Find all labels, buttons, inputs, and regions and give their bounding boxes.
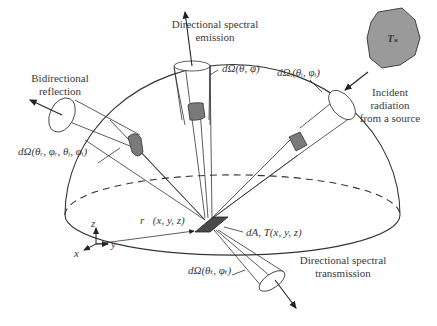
label-axis-z: z xyxy=(91,217,95,230)
label-solid-angle-transmission: dΩ(θₜ, φₜ) xyxy=(188,264,231,277)
label-solid-angle-incident: dΩᵢ(θᵢ, φᵢ) xyxy=(277,66,320,79)
label-transmission: Directional spectral transmission xyxy=(278,254,408,280)
reflection-patch xyxy=(128,134,143,156)
label-reflection: Bidirectional reflection xyxy=(15,72,105,98)
incident-patch xyxy=(289,132,307,151)
emission-patch xyxy=(188,103,205,120)
coordinate-axes xyxy=(84,228,108,250)
label-area-element: dA, T(x, y, z) xyxy=(246,226,302,239)
label-solid-angle-reflection: dΩ(θᵣ, φᵣ, θᵢ, φᵢ) xyxy=(18,145,87,158)
label-solid-angle-emission: dΩ(θ, φ) xyxy=(222,62,260,75)
label-position-vector: r⃗(x, y, z) xyxy=(140,214,185,227)
label-axis-x: x xyxy=(74,247,79,260)
label-source-temperature: Tₛ xyxy=(387,32,398,45)
label-incident: Incident radiation from a source xyxy=(345,86,435,125)
label-emission: Directional spectral emission xyxy=(150,18,280,44)
label-axis-y: y xyxy=(111,238,116,251)
